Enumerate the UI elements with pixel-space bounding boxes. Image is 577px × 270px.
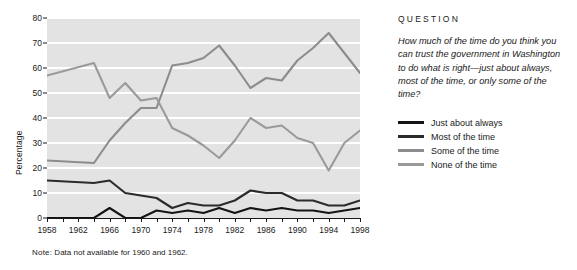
x-tick-mark: [125, 218, 126, 222]
y-tick-label: 60: [33, 64, 42, 73]
x-tick-mark: [141, 218, 142, 222]
x-tick-label: 1970: [131, 226, 150, 235]
y-tick-mark: [43, 193, 47, 194]
question-text: How much of the time do you think you ca…: [398, 35, 570, 102]
legend-label: None of the time: [431, 160, 497, 170]
x-tick-mark: [360, 218, 361, 222]
question-heading: QUESTION: [398, 14, 570, 24]
x-tick-mark: [78, 218, 79, 222]
plot-area: 0102030405060708019581962196619701974197…: [47, 18, 360, 218]
y-tick-label: 0: [37, 214, 42, 223]
x-tick-mark: [329, 218, 330, 222]
x-tick-mark: [266, 218, 267, 222]
chart-screenshot: Percentage 01020304050607080195819621966…: [0, 0, 577, 270]
y-tick-label: 30: [33, 139, 42, 148]
y-tick-mark: [43, 43, 47, 44]
x-tick-label: 1958: [38, 226, 57, 235]
y-tick-mark: [43, 18, 47, 19]
legend-item: None of the time: [398, 158, 570, 172]
x-tick-mark: [110, 218, 111, 222]
x-tick-mark: [63, 218, 64, 222]
series-line-2: [47, 181, 360, 209]
x-tick-mark: [344, 218, 345, 222]
x-tick-label: 1990: [288, 226, 307, 235]
y-tick-label: 50: [33, 89, 42, 98]
y-tick-label: 20: [33, 164, 42, 173]
chart-legend: Just about alwaysMost of the timeSome of…: [398, 116, 570, 172]
x-tick-label: 1994: [319, 226, 338, 235]
y-tick-label: 10: [33, 189, 42, 198]
y-tick-mark: [43, 68, 47, 69]
y-tick-label: 80: [33, 14, 42, 23]
series-line-4: [47, 63, 360, 171]
x-tick-mark: [282, 218, 283, 222]
x-tick-mark: [157, 218, 158, 222]
y-tick-label: 70: [33, 39, 42, 48]
x-tick-mark: [204, 218, 205, 222]
x-tick-mark: [172, 218, 173, 222]
x-tick-mark: [188, 218, 189, 222]
legend-item: Most of the time: [398, 130, 570, 144]
x-tick-mark: [219, 218, 220, 222]
legend-label: Just about always: [431, 118, 503, 128]
side-panel: QUESTION How much of the time do you thi…: [398, 14, 570, 172]
y-tick-mark: [43, 143, 47, 144]
legend-swatch-icon: [398, 121, 424, 124]
x-tick-label: 1974: [163, 226, 182, 235]
legend-item: Just about always: [398, 116, 570, 130]
y-tick-label: 40: [33, 114, 42, 123]
x-tick-label: 1998: [351, 226, 370, 235]
legend-swatch-icon: [398, 163, 424, 166]
y-axis-label: Percentage: [14, 161, 24, 175]
x-tick-mark: [250, 218, 251, 222]
series-line-1: [47, 208, 360, 218]
legend-label: Most of the time: [431, 132, 495, 142]
x-tick-label: 1982: [225, 226, 244, 235]
x-tick-label: 1962: [69, 226, 88, 235]
x-tick-mark: [94, 218, 95, 222]
y-tick-mark: [43, 168, 47, 169]
legend-item: Some of the time: [398, 144, 570, 158]
x-tick-label: 1978: [194, 226, 213, 235]
x-tick-label: 1986: [257, 226, 276, 235]
note-label: Note:: [32, 248, 52, 257]
x-tick-mark: [313, 218, 314, 222]
x-tick-mark: [297, 218, 298, 222]
line-chart: Percentage 01020304050607080195819621966…: [0, 0, 380, 270]
y-tick-mark: [43, 118, 47, 119]
y-tick-mark: [43, 93, 47, 94]
legend-label: Some of the time: [431, 146, 499, 156]
legend-swatch-icon: [398, 135, 424, 138]
x-tick-mark: [47, 218, 48, 222]
legend-swatch-icon: [398, 149, 424, 152]
chart-note: Note: Data not available for 1960 and 19…: [32, 248, 188, 257]
x-tick-mark: [235, 218, 236, 222]
series-canvas: [47, 18, 360, 218]
x-tick-label: 1966: [100, 226, 119, 235]
note-text: Data not available for 1960 and 1962.: [54, 248, 187, 257]
